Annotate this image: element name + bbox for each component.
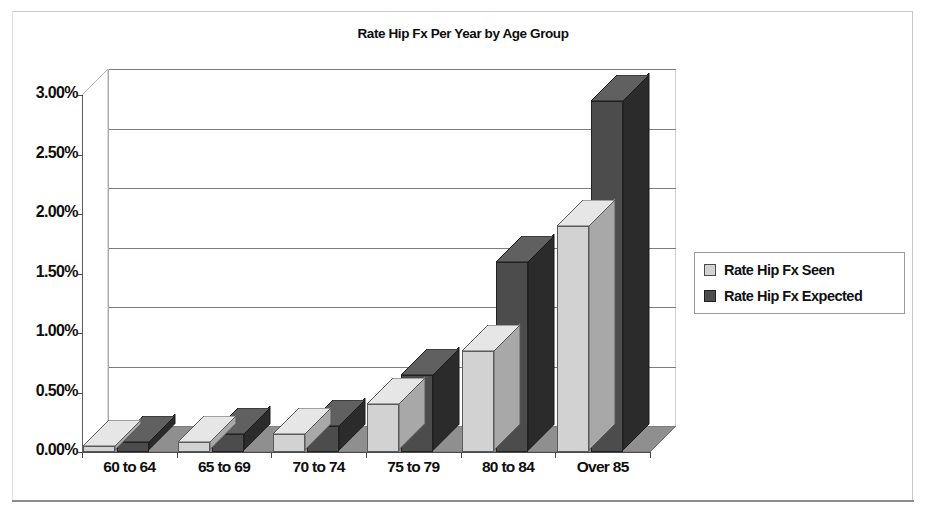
bar-side-face: [528, 234, 556, 452]
chart-page: Rate Hip Fx Per Year by Age Group 0.00%0…: [0, 0, 926, 525]
bar-front-face: [178, 442, 210, 452]
bar-seen: [273, 434, 305, 452]
bar-top-face: [591, 75, 651, 103]
bar-top-face: [462, 325, 522, 353]
gridline: [109, 69, 676, 70]
bar-front-face: [557, 226, 589, 452]
y-axis-tick: [78, 155, 83, 156]
bar-front-face: [83, 446, 115, 452]
bar-top-face: [273, 408, 333, 436]
bar-top-face: [83, 420, 143, 448]
bar-top-face: [178, 416, 238, 444]
y-axis-label: 0.00%: [4, 441, 78, 459]
bar-front-face: [462, 351, 494, 452]
bar-seen: [557, 226, 589, 452]
x-axis-label: Over 85: [543, 458, 663, 476]
bar-seen: [178, 442, 210, 452]
y-axis-tick: [78, 95, 83, 96]
y-axis-tick: [78, 393, 83, 394]
chart-side-wall: [82, 69, 108, 452]
legend-item-expected: Rate Hip Fx Expected: [704, 283, 862, 309]
chart-legend: Rate Hip Fx Seen Rate Hip Fx Expected: [694, 252, 905, 314]
y-axis-label: 1.50%: [4, 263, 78, 281]
legend-label-expected: Rate Hip Fx Expected: [724, 288, 862, 304]
bar-side-face: [623, 73, 651, 452]
bar-side-face: [589, 198, 617, 452]
y-axis-label: 2.00%: [4, 203, 78, 221]
bar-top-face: [367, 378, 427, 406]
y-axis-tick: [78, 274, 83, 275]
y-axis-label: 1.00%: [4, 322, 78, 340]
bar-top-face: [401, 349, 461, 377]
legend-item-seen: Rate Hip Fx Seen: [704, 257, 834, 283]
y-axis-tick: [78, 333, 83, 334]
bar-front-face: [273, 434, 305, 452]
bar-seen: [83, 446, 115, 452]
legend-label-seen: Rate Hip Fx Seen: [724, 262, 834, 278]
legend-swatch-icon-seen: [704, 264, 716, 276]
bar-top-face: [496, 236, 556, 264]
bar-seen: [367, 404, 399, 452]
bar-top-face: [557, 200, 617, 228]
bar-front-face: [367, 404, 399, 452]
legend-swatch-icon-expected: [704, 290, 716, 302]
bar-seen: [462, 351, 494, 452]
y-axis-label: 3.00%: [4, 84, 78, 102]
y-axis-label: 2.50%: [4, 144, 78, 162]
y-axis-tick: [78, 214, 83, 215]
y-axis-label: 0.50%: [4, 382, 78, 400]
